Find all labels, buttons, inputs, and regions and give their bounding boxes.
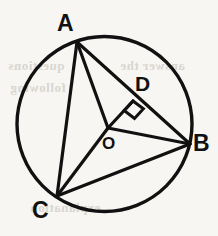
segment-radius-ob bbox=[108, 128, 190, 144]
vertex-label-d: D bbox=[135, 73, 150, 94]
vertex-label-c: C bbox=[32, 199, 49, 222]
diagram-canvas: questions answer the following explanati… bbox=[0, 0, 218, 236]
vertex-label-o: O bbox=[102, 135, 115, 152]
vertex-label-b: B bbox=[193, 132, 210, 155]
vertex-label-a: A bbox=[57, 12, 74, 35]
